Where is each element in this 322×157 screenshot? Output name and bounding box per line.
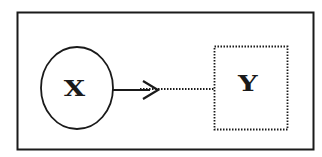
diagram-svg [0, 0, 322, 157]
diagram-canvas: X Y [0, 0, 322, 157]
node-y-label: Y [238, 72, 258, 94]
node-x-label: X [64, 77, 85, 99]
